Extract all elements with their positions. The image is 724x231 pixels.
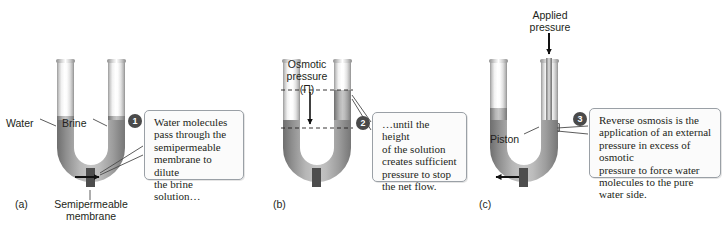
panel-a-brine-leader: [93, 119, 107, 126]
callout-1-pointer-2: [100, 155, 143, 175]
panel-a-water-leader: [40, 119, 56, 126]
callout-3-pointer-1: [557, 126, 588, 128]
callout-1-pointer-1: [100, 146, 143, 173]
callout-2-pointer-1: [352, 95, 371, 122]
figure-canvas: Water Brine Semipermeable membrane (a) W…: [0, 0, 724, 231]
annotation-overlay: [0, 0, 724, 231]
callout-3-pointer-2: [557, 131, 588, 134]
panel-c-piston-leader: [524, 127, 539, 134]
callout-2-pointer-2: [352, 99, 371, 130]
